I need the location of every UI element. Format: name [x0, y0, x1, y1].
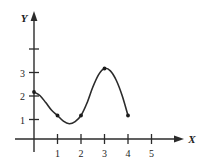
- curve-point-4-1: [126, 114, 130, 118]
- x-tick-label-5: 5: [149, 148, 154, 159]
- curve-point-3-3: [103, 67, 107, 71]
- x-tick-label-3: 3: [102, 148, 107, 159]
- graph-canvas: 1 2 3 1 2 3 4 5 Y X: [0, 0, 204, 165]
- x-axis-arrow-icon: [174, 136, 184, 143]
- x-tick-label-2: 2: [79, 148, 84, 159]
- function-graph-figure: 1 2 3 1 2 3 4 5 Y X: [0, 0, 204, 165]
- x-tick-label-1: 1: [55, 148, 60, 159]
- curve-point-start: [32, 90, 36, 94]
- x-axis-label: X: [187, 133, 196, 145]
- y-axis-label: Y: [21, 12, 29, 24]
- y-tick-label-2: 2: [20, 91, 25, 102]
- y-tick-label-3: 3: [20, 68, 25, 79]
- curve-point-2-1: [79, 114, 83, 118]
- curve-point-1-1: [56, 114, 60, 118]
- y-tick-label-1: 1: [20, 115, 25, 126]
- y-axis-arrow-icon: [31, 11, 38, 21]
- x-tick-label-4: 4: [126, 148, 131, 159]
